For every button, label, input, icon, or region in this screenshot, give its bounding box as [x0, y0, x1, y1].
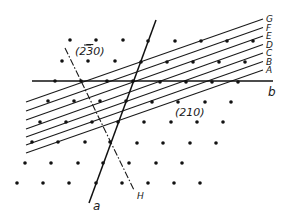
miller-230-prefix: (2 [75, 45, 86, 58]
miller-index-label-210: (210) [175, 106, 205, 119]
lattice-point [105, 79, 109, 83]
lattice-point [131, 79, 135, 83]
plane-line-e [26, 36, 263, 120]
lattice-point [214, 141, 218, 145]
lattice-point [127, 161, 131, 165]
lattice-point [221, 120, 225, 124]
lattice-point [135, 141, 139, 145]
plane-line-b [26, 62, 263, 146]
lattice-point [83, 140, 87, 144]
plane-label-d: D [266, 40, 273, 50]
lattice-point [79, 79, 83, 83]
lattice-point [86, 59, 90, 63]
lattice-point [154, 161, 158, 165]
line-h-label: H [137, 191, 144, 201]
lattice-point [229, 100, 233, 104]
miller-index-label-2-bar3-0: (230) [75, 45, 105, 58]
lattice-point [108, 140, 112, 144]
lattice-point [142, 120, 146, 124]
crystal-lattice-diagram: ABCDEFG b a H (210) (230) [0, 0, 291, 218]
plane-label-a: A [265, 65, 272, 75]
lattice-point [188, 141, 192, 145]
plane-label-b: B [266, 57, 272, 67]
axis-b-label: b [268, 85, 276, 99]
lattice-point [53, 79, 57, 83]
lattice-point [169, 120, 173, 124]
lattice-point [195, 120, 199, 124]
lattice-plane-family-210 [26, 19, 263, 153]
lattice-point [98, 99, 102, 103]
lattice-point [76, 161, 80, 165]
lattice-point [191, 60, 195, 64]
lattice-point [94, 181, 98, 185]
axis-a-label: a [93, 199, 100, 213]
plane-label-e: E [266, 31, 272, 41]
lattice-point [56, 140, 60, 144]
lattice-point [67, 181, 71, 185]
plane-line-a [26, 70, 263, 153]
lattice-point [121, 38, 125, 42]
lattice-point [146, 39, 150, 43]
plane-letter-labels: ABCDEFG [265, 14, 273, 75]
lattice-point [236, 80, 240, 84]
lattice-point [68, 38, 72, 42]
lattice-point [158, 80, 162, 84]
plane-label-f: F [266, 23, 272, 33]
lattice-point [124, 99, 128, 103]
lattice-point [198, 181, 202, 185]
lattice-point [217, 60, 221, 64]
lattice-point [23, 161, 27, 165]
lattice-point [176, 100, 180, 104]
lattice-point [184, 80, 188, 84]
lattice-point [72, 99, 76, 103]
lattice-point [15, 181, 19, 185]
lattice-point [243, 60, 247, 64]
lattice-point [94, 38, 98, 42]
lattice-point [113, 59, 117, 63]
lattice-point [172, 181, 176, 185]
lattice-point [64, 120, 68, 124]
lattice-point [90, 120, 94, 124]
lattice-point [49, 161, 53, 165]
lattice-point [41, 181, 45, 185]
lattice-point [30, 140, 34, 144]
lattice-point [120, 181, 124, 185]
lattice-point [46, 99, 50, 103]
lattice-point [251, 39, 255, 43]
miller-230-suffix: 0) [93, 45, 104, 58]
lattice-point [210, 80, 214, 84]
lattice-point [225, 39, 229, 43]
lattice-point [161, 141, 165, 145]
lattice-point [180, 161, 184, 165]
plane-label-c: C [266, 48, 273, 58]
lattice-point [150, 100, 154, 104]
lattice-point [203, 100, 207, 104]
lattice-point [60, 59, 64, 63]
lattice-point [199, 39, 203, 43]
plane-line-d [26, 45, 263, 130]
lattice-point [139, 60, 143, 64]
plane-line-c [26, 53, 263, 137]
lattice-point [116, 120, 120, 124]
plane-label-g: G [266, 14, 273, 24]
lattice-point [101, 161, 105, 165]
lattice-point [165, 60, 169, 64]
miller-230-barred-digit: 3 [86, 45, 93, 58]
lattice-point [173, 39, 177, 43]
lattice-point [38, 120, 42, 124]
lattice-point [146, 181, 150, 185]
